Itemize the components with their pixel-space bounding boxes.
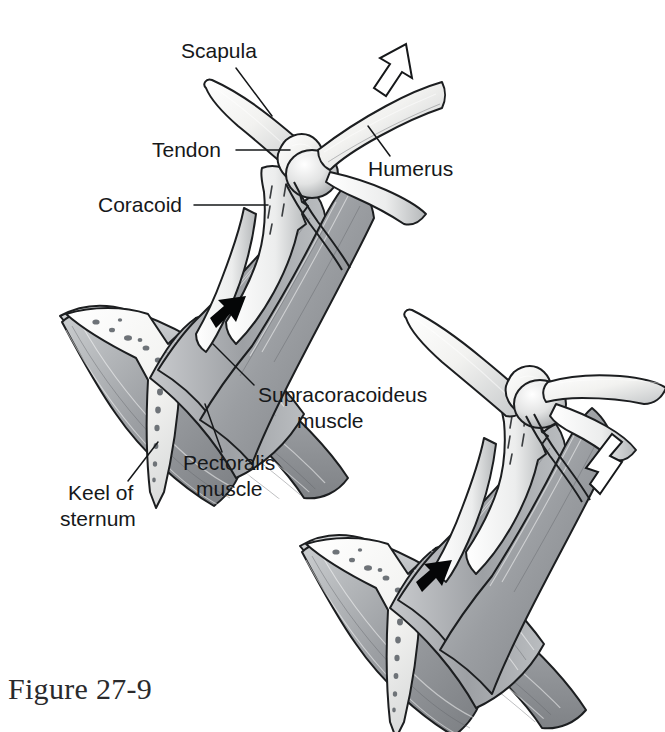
lower-figure-downstroke bbox=[286, 310, 665, 732]
label-humerus-text: Humerus bbox=[368, 157, 453, 180]
label-keel-line2: sternum bbox=[60, 507, 136, 530]
label-supracoracoideus-line2: muscle bbox=[297, 409, 364, 432]
figure-root: Scapula Tendon Coracoid Humerus Supracor… bbox=[0, 0, 665, 732]
label-supracoracoideus-line1: Supracoracoideus bbox=[258, 383, 427, 406]
figure-caption: Figure 27-9 bbox=[8, 672, 152, 706]
label-scapula-text: Scapula bbox=[181, 39, 257, 62]
hollow-arrow-up-right-upper bbox=[374, 44, 412, 96]
humerus-bone-lower bbox=[543, 375, 665, 404]
anatomy-illustration: Scapula Tendon Coracoid Humerus Supracor… bbox=[0, 0, 665, 732]
label-keel-line1: Keel of bbox=[68, 481, 134, 504]
label-tendon-text: Tendon bbox=[152, 138, 221, 161]
label-pectoralis-line2: muscle bbox=[196, 477, 263, 500]
label-coracoid-text: Coracoid bbox=[98, 193, 182, 216]
label-pectoralis-line1: Pectoralis bbox=[183, 451, 275, 474]
label-keel-of-sternum: Keel of sternum bbox=[60, 442, 158, 530]
